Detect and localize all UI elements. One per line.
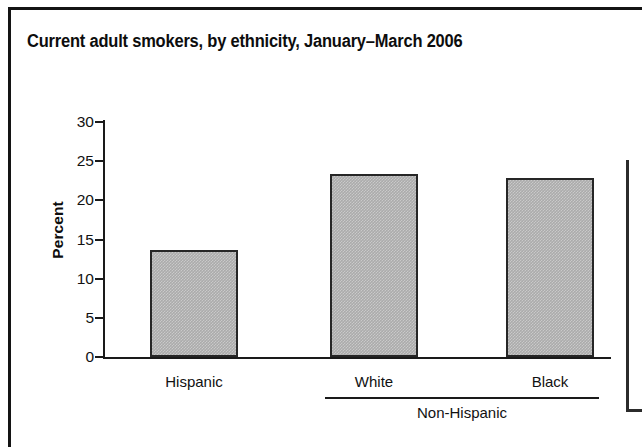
bar-white — [330, 174, 418, 357]
figure-panel: Current adult smokers, by ethnicity, Jan… — [0, 0, 642, 447]
y-tick-mark — [95, 317, 104, 319]
x-category-label-white: White — [294, 374, 454, 389]
non-hispanic-group-label: Non-Hispanic — [325, 405, 599, 420]
x-category-label-hispanic: Hispanic — [114, 374, 274, 389]
y-tick-mark — [95, 199, 104, 201]
non-hispanic-group-bracket — [325, 397, 599, 399]
y-tick-mark — [95, 239, 104, 241]
y-tick-label: 5 — [34, 310, 94, 326]
y-tick-label: 0 — [34, 349, 94, 365]
y-tick-label: 10 — [34, 271, 94, 287]
x-category-label-black: Black — [470, 374, 630, 389]
y-tick-label: 30 — [34, 114, 94, 130]
y-tick-mark — [95, 356, 104, 358]
bar-black — [506, 178, 594, 357]
y-tick-label: 25 — [34, 153, 94, 169]
bar-chart-plot-area: 0 5 10 15 20 25 30 Percent Hispanic Whit… — [0, 0, 642, 447]
y-tick-mark — [95, 160, 104, 162]
y-tick-mark — [95, 278, 104, 280]
y-axis-title: Percent — [49, 201, 67, 259]
bar-hispanic — [150, 250, 238, 357]
x-axis-line — [103, 357, 611, 359]
y-tick-mark — [95, 121, 104, 123]
